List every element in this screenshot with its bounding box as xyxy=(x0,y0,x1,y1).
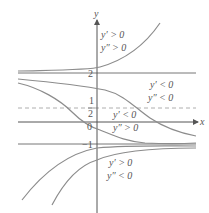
tick-label-0: 0 xyxy=(87,121,92,132)
region-label-lower-mid-line2: y″ > 0 xyxy=(112,122,138,133)
x-axis-label: x xyxy=(199,116,205,127)
tick-label-half-numerator: 1 xyxy=(89,95,94,106)
region-label-top-line1: y′ > 0 xyxy=(100,29,124,40)
region-label-bottom-line2: y″ < 0 xyxy=(106,170,132,181)
y-axis-label: y xyxy=(93,8,99,19)
solution-curves-diagram: y x 2 1 2 0 −1 y′ > 0 y″ > 0 y′ < 0 y″ <… xyxy=(0,0,209,213)
region-label-top-line2: y″ > 0 xyxy=(100,42,126,53)
region-label-bottom-line1: y′ > 0 xyxy=(108,157,132,168)
tick-label-minus-1: −1 xyxy=(82,139,93,150)
region-label-upper-mid-line2: y″ < 0 xyxy=(147,92,173,103)
region-label-upper-mid-line1: y′ < 0 xyxy=(149,79,173,90)
curve-above-2 xyxy=(18,23,160,71)
region-label-lower-mid-line1: y′ < 0 xyxy=(112,109,136,120)
tick-label-half-denominator: 2 xyxy=(88,108,93,119)
tick-label-2: 2 xyxy=(88,68,93,79)
